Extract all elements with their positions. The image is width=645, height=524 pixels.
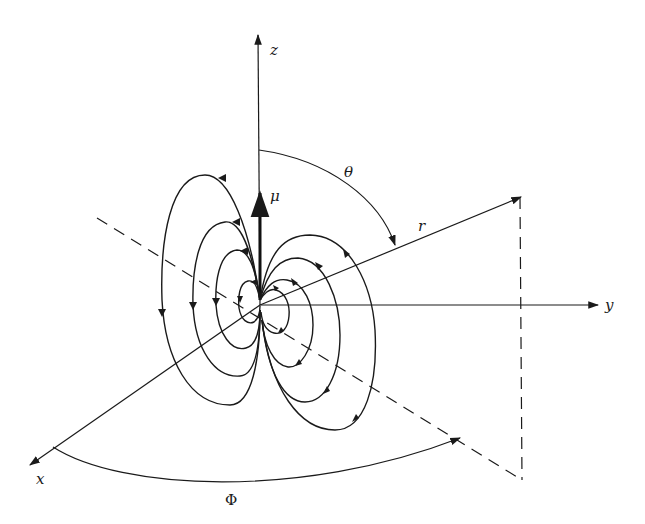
r-vector [260,197,521,305]
r-label: r [418,217,426,235]
dipole-diagram: z y x θ r Φ μ [0,0,645,524]
phi-label: Φ [225,491,237,509]
phi-arc [53,438,460,482]
x-axis [30,305,260,465]
y-axis-label: y [604,296,614,314]
x-axis-label: x [36,470,45,488]
z-axis-label: z [269,41,278,59]
theta-label: θ [344,163,353,181]
mu-label: μ [270,187,280,205]
projection-dashed-line [97,218,522,480]
vertical-dashed-line [520,197,522,480]
field-lines-left [162,175,260,405]
